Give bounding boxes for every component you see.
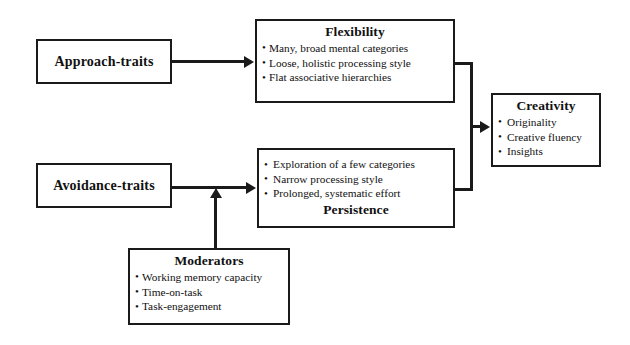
node-flexibility: Flexibility Many, broad mental categorie… [255, 19, 455, 103]
list-item: Exploration of a few categories [264, 157, 448, 172]
list-item: Task-engagement [135, 299, 283, 314]
diagram-canvas: Approach-traits Flexibility Many, broad … [0, 0, 630, 345]
node-approach-traits: Approach-traits [36, 39, 172, 84]
list-item: Narrow processing style [264, 172, 448, 187]
node-persistence: Exploration of a few categories Narrow p… [257, 148, 455, 228]
edge-approach-to-flexibility-line [172, 60, 245, 63]
node-avoidance-traits: Avoidance-traits [36, 163, 172, 208]
persistence-title: Persistence [264, 202, 448, 218]
moderators-bullet-list: Working memory capacity Time-on-task Tas… [135, 270, 283, 314]
edge-moderators-to-link-arrowhead [210, 188, 222, 198]
list-item: Creative fluency [498, 130, 594, 145]
creativity-bullet-list: Originality Creative fluency Insights [498, 115, 594, 159]
moderators-title: Moderators [135, 253, 283, 269]
flexibility-bullet-list: Many, broad mental categories Loose, hol… [262, 41, 448, 85]
edge-merge-to-creativity-arrowhead [480, 121, 490, 133]
list-item: Prolonged, systematic effort [264, 186, 448, 201]
list-item: Originality [498, 115, 594, 130]
list-item: Flat associative hierarchies [262, 70, 448, 85]
list-item: Insights [498, 144, 594, 159]
list-item: Working memory capacity [135, 270, 283, 285]
avoidance-traits-label: Avoidance-traits [38, 178, 170, 194]
creativity-title: Creativity [498, 98, 594, 114]
approach-traits-label: Approach-traits [38, 54, 170, 70]
list-item: Many, broad mental categories [262, 41, 448, 56]
edge-moderators-to-link-line [214, 197, 217, 248]
persistence-bullet-list: Exploration of a few categories Narrow p… [264, 157, 448, 201]
edge-approach-to-flexibility-arrowhead [244, 56, 254, 68]
list-item: Loose, holistic processing style [262, 56, 448, 71]
node-creativity: Creativity Originality Creative fluency … [491, 93, 601, 167]
flexibility-title: Flexibility [262, 24, 448, 40]
list-item: Time-on-task [135, 285, 283, 300]
edge-avoidance-to-persistence-arrowhead [246, 182, 256, 194]
node-moderators: Moderators Working memory capacity Time-… [128, 248, 290, 325]
